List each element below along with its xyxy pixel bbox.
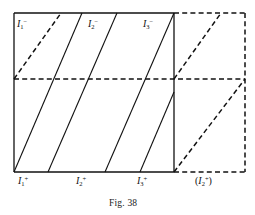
label-I3-minus: I3− <box>143 19 153 29</box>
solid-diagonal-lines <box>14 13 174 172</box>
label-superscript: + <box>25 175 29 182</box>
label-superscript: − <box>24 18 28 25</box>
solid-diagonal-4 <box>140 92 174 172</box>
figure-caption: Fig. 38 <box>109 198 137 208</box>
label-superscript: − <box>150 18 154 25</box>
solid-diagonal-2 <box>48 13 117 172</box>
figure-drawing <box>0 0 255 215</box>
label-I2-plus-parenthesized: (I2+) <box>195 176 212 186</box>
label-superscript: − <box>95 18 99 25</box>
label-I1-plus: I1+ <box>18 176 28 186</box>
figure-container: I1− I2− I3− I1+ I2+ I3+ (I2+) Fig. 38 <box>0 0 255 215</box>
solid-diagonal-1 <box>14 13 82 172</box>
dashed-diagonal-right-upper <box>174 13 221 79</box>
label-I2-plus: I2+ <box>76 176 86 186</box>
dashed-diagonal-right-lower <box>174 79 245 172</box>
label-superscript: + <box>144 175 148 182</box>
label-I1-minus: I1− <box>17 19 27 29</box>
label-superscript: + <box>83 175 87 182</box>
paren-close: ) <box>209 175 212 186</box>
dashed-diagonals-right <box>174 13 245 172</box>
label-I3-plus: I3+ <box>137 176 147 186</box>
solid-diagonal-3 <box>105 13 174 172</box>
label-I2-minus: I2− <box>88 19 98 29</box>
